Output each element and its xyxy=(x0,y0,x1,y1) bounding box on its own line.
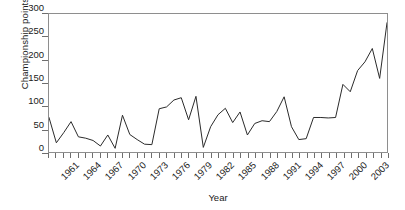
x-tick-mark xyxy=(181,153,182,158)
y-tick-mark xyxy=(42,60,48,61)
x-tick-mark xyxy=(262,153,263,158)
x-tick-mark xyxy=(344,153,345,158)
x-tick-mark xyxy=(329,153,330,158)
x-tick-label: 1988 xyxy=(259,160,281,182)
x-tick-mark xyxy=(307,153,308,158)
x-tick-mark xyxy=(373,153,374,158)
y-tick-label: 200 xyxy=(16,50,44,60)
x-tick-mark xyxy=(159,153,160,158)
x-tick-mark xyxy=(299,153,300,158)
x-tick-mark xyxy=(55,153,56,158)
x-tick-mark xyxy=(211,153,212,158)
x-tick-mark xyxy=(270,153,271,158)
x-tick-mark xyxy=(225,153,226,158)
y-tick-mark xyxy=(42,130,48,131)
x-tick-mark xyxy=(63,153,64,158)
y-tick-label: 150 xyxy=(16,73,44,83)
x-tick-mark xyxy=(321,153,322,158)
chart-figure: Championship points 050100150200250300 Y… xyxy=(0,0,405,210)
x-tick-mark xyxy=(115,153,116,158)
x-tick-mark xyxy=(92,153,93,158)
x-tick-mark xyxy=(240,153,241,158)
x-tick-mark xyxy=(233,153,234,158)
x-tick-mark xyxy=(78,153,79,158)
x-tick-mark xyxy=(166,153,167,158)
x-tick-mark xyxy=(381,153,382,158)
x-tick-label: 1982 xyxy=(214,160,236,182)
x-tick-mark xyxy=(174,153,175,158)
x-tick-label: 1973 xyxy=(148,160,170,182)
x-tick-mark xyxy=(122,153,123,158)
x-tick-mark xyxy=(248,153,249,158)
x-tick-mark xyxy=(188,153,189,158)
x-tick-mark xyxy=(85,153,86,158)
x-tick-label: 1970 xyxy=(126,160,148,182)
y-tick-mark xyxy=(42,13,48,14)
x-tick-label: 1994 xyxy=(303,160,325,182)
x-tick-label: 1961 xyxy=(59,160,81,182)
x-tick-label: 1976 xyxy=(170,160,192,182)
x-tick-mark xyxy=(70,153,71,158)
plot-area xyxy=(48,13,388,153)
y-tick-mark xyxy=(42,36,48,37)
y-tick-mark xyxy=(42,83,48,84)
x-tick-mark xyxy=(277,153,278,158)
x-tick-label: 1997 xyxy=(325,160,347,182)
x-tick-mark xyxy=(366,153,367,158)
x-tick-label: 1991 xyxy=(281,160,303,182)
y-tick-label: 0 xyxy=(16,143,44,153)
x-tick-mark xyxy=(129,153,130,158)
x-tick-label: 1967 xyxy=(104,160,126,182)
x-tick-label: 1964 xyxy=(81,160,103,182)
x-tick-mark xyxy=(196,153,197,158)
y-tick-label: 250 xyxy=(16,27,44,37)
x-tick-mark xyxy=(107,153,108,158)
y-tick-label: 50 xyxy=(16,120,44,130)
x-tick-mark xyxy=(336,153,337,158)
line-series-svg xyxy=(49,14,387,152)
x-tick-mark xyxy=(100,153,101,158)
y-tick-label: 100 xyxy=(16,97,44,107)
x-tick-label: 1985 xyxy=(237,160,259,182)
x-tick-mark xyxy=(388,153,389,158)
y-axis-tick-labels: 050100150200250300 xyxy=(16,8,44,153)
x-tick-mark xyxy=(292,153,293,158)
x-tick-mark xyxy=(48,153,49,158)
x-tick-mark xyxy=(151,153,152,158)
x-axis-title: Year xyxy=(48,192,388,203)
x-tick-mark xyxy=(137,153,138,158)
x-tick-mark xyxy=(203,153,204,158)
x-tick-mark xyxy=(358,153,359,158)
x-tick-mark xyxy=(144,153,145,158)
x-tick-label: 1979 xyxy=(192,160,214,182)
x-tick-label: 2003 xyxy=(370,160,392,182)
x-tick-mark xyxy=(351,153,352,158)
y-tick-mark xyxy=(42,106,48,107)
championship-points-line xyxy=(49,23,387,149)
x-tick-mark xyxy=(285,153,286,158)
x-tick-label: 2000 xyxy=(347,160,369,182)
y-tick-label: 300 xyxy=(16,3,44,13)
x-tick-mark xyxy=(255,153,256,158)
x-tick-mark xyxy=(314,153,315,158)
x-tick-mark xyxy=(218,153,219,158)
